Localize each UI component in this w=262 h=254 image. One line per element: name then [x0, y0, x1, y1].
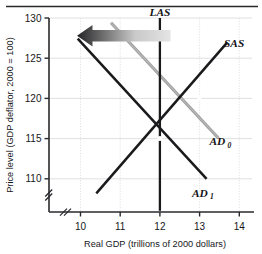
- x-tick-label-14: 14: [234, 221, 246, 232]
- curve-label-ad0-text: AD: [209, 135, 226, 147]
- as-ad-chart-svg: 130 125 120 115 110 10 11 12 13 14 Real …: [0, 0, 262, 254]
- new-equilibrium-point: [157, 136, 162, 141]
- curve-label-ad1-text: AD: [191, 187, 208, 199]
- y-tick-label-110: 110: [26, 173, 42, 184]
- y-tick-label-130: 130: [25, 13, 42, 24]
- x-tick-label-11: 11: [115, 221, 126, 232]
- as-ad-chart-figure: 130 125 120 115 110 10 11 12 13 14 Real …: [0, 0, 262, 254]
- y-tick-label-120: 120: [25, 93, 42, 104]
- x-tick-label-10: 10: [75, 221, 87, 232]
- x-tick-label-12: 12: [154, 221, 166, 232]
- curve-label-ad0-subscript: 0: [228, 141, 232, 150]
- y-axis-title: Price level (GDP deflator, 2000 = 100): [5, 37, 15, 193]
- y-tick-label-115: 115: [26, 133, 42, 144]
- y-tick-label-125: 125: [25, 53, 42, 64]
- x-tick-label-13: 13: [194, 221, 206, 232]
- initial-equilibrium-point: [197, 96, 201, 100]
- curve-label-las: LAS: [149, 6, 171, 18]
- x-axis-title: Real GDP (trillions of 2000 dollars): [84, 239, 226, 249]
- curve-label-ad1-subscript: 1: [210, 192, 214, 201]
- curve-label-sas: SAS: [224, 37, 244, 49]
